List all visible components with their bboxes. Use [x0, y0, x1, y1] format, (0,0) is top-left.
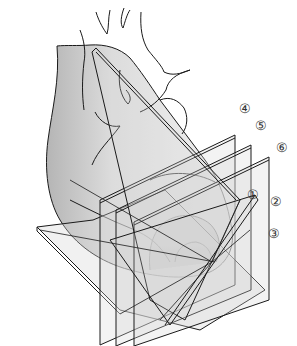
- plane-label-5: ⑤: [255, 119, 267, 132]
- heart-planes-diagram: ④ ⑤ ⑥ ① ② ③: [0, 0, 297, 346]
- plane-label-3: ③: [268, 227, 280, 240]
- plane-label-4: ④: [239, 102, 251, 115]
- vessel-3: [141, 12, 164, 72]
- plane-label-2: ②: [270, 195, 282, 208]
- vessel-2: [121, 8, 130, 28]
- diagram-svg: [0, 0, 297, 346]
- vessel-1: [96, 10, 110, 34]
- plane-label-1: ①: [247, 188, 259, 201]
- plane-label-6: ⑥: [276, 141, 288, 154]
